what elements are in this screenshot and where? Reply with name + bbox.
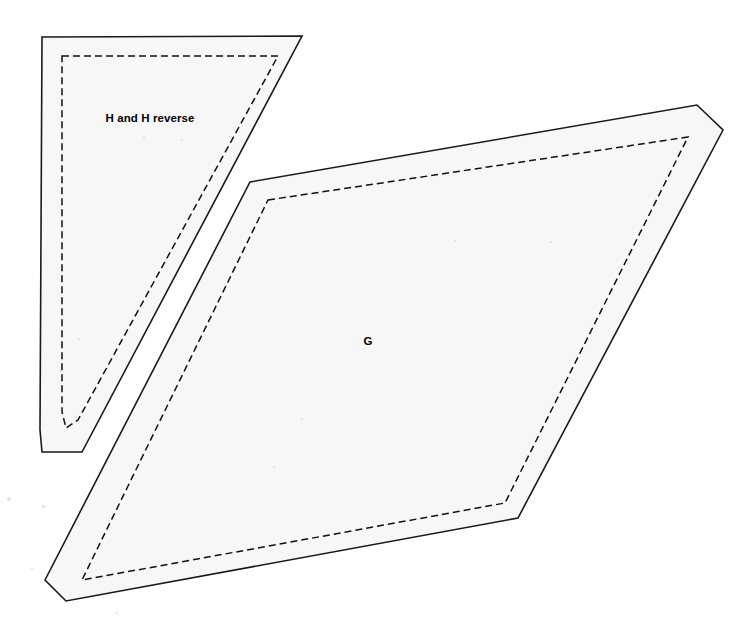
pattern-drawing: H and H reverse G [0,0,755,635]
paper-speck [454,240,456,242]
piece-h-label: H and H reverse [105,112,194,124]
paper-speck [181,139,183,141]
paper-speck [273,466,275,468]
piece-g-label: G [363,335,372,347]
paper-speck [301,418,303,420]
paper-speck [42,505,45,508]
paper-speck [116,612,118,614]
paper-speck [31,568,33,570]
paper-speck [143,137,145,139]
paper-speck [78,338,80,340]
paper-speck [59,370,61,372]
paper-speck [7,497,11,501]
paper-speck [550,241,552,243]
pattern-sheet-canvas: H and H reverse G [0,0,755,635]
